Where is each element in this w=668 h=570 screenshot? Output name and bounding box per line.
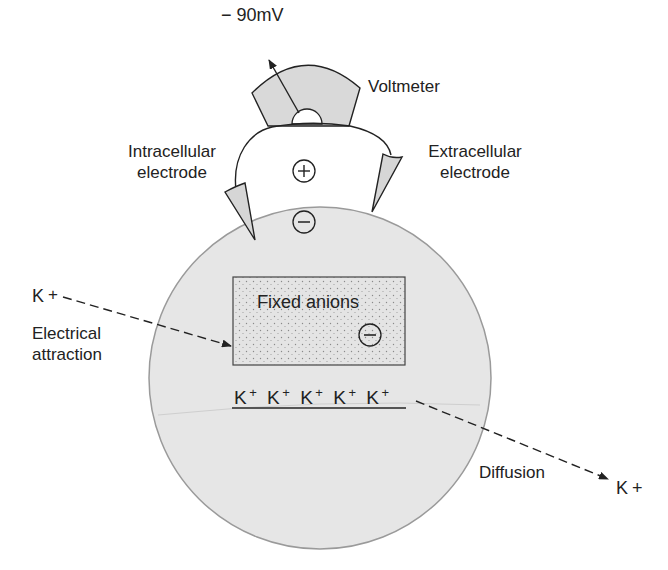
cell-body [149,207,491,549]
extracellular-line2: electrode [410,162,540,183]
k-ion-right: K+ [616,478,643,499]
intracellular-electrode-label: Intracellular electrode [107,141,237,183]
membrane-potential-diagram [0,0,668,570]
extracellular-electrode-label: Extracellular electrode [410,141,540,183]
intracellular-line1: Intracellular [107,141,237,162]
diffusion-label: Diffusion [479,462,545,483]
voltmeter-reading: − 90mV [221,5,284,26]
k-ion: K+ [333,387,356,408]
electrode-wire [235,123,391,190]
k-ion: K+ [366,387,389,408]
extracellular-line1: Extracellular [410,141,540,162]
voltmeter-label: Voltmeter [368,76,440,97]
fixed-anions-label: Fixed anions [257,292,359,313]
fixed-anions-box [233,277,405,365]
intracellular-line2: electrode [107,162,237,183]
k-ion: K+ [267,387,290,408]
k-ion-row: K+ K+ K+ K+ K+ [234,385,394,409]
k-ion: K+ [234,387,257,408]
k-ion-left: K+ [32,284,58,307]
k-ion: K+ [300,387,323,408]
extracellular-electrode-icon [372,154,402,212]
electrical-attraction-label: Electrical attraction [32,323,102,365]
